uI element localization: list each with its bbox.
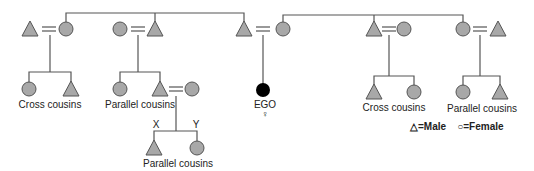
female-icon [113, 82, 127, 96]
female-icon [22, 82, 36, 96]
female-icon [59, 22, 73, 36]
label-parallel-cousins-bottom: Parallel cousins [143, 158, 213, 169]
female-symbol-icon: ♀ [262, 109, 269, 119]
legend: △=Male ○=Female [410, 121, 504, 132]
label-cross-cousins-right: Cross cousins [363, 102, 426, 113]
female-icon [397, 22, 411, 36]
female-icon [113, 22, 127, 36]
label-parallel-cousins-left: Parallel cousins [105, 99, 175, 110]
female-icon [456, 22, 470, 36]
male-icon [490, 21, 506, 36]
male-icon [152, 81, 168, 96]
label-cross-cousins-left: Cross cousins [19, 99, 82, 110]
male-icon [366, 84, 382, 99]
male-icon [146, 140, 162, 155]
marker-x: X [153, 119, 160, 130]
male-icon [236, 21, 252, 36]
marker-y: Y [193, 119, 200, 130]
male-icon [147, 21, 163, 36]
female-icon [407, 85, 421, 99]
female-icon [456, 85, 470, 99]
female-icon [190, 141, 204, 155]
male-icon [492, 84, 508, 99]
kinship-diagram [0, 0, 534, 171]
male-icon [366, 21, 382, 36]
legend-male-icon: △ [410, 121, 418, 132]
ego-icon [256, 83, 270, 97]
male-icon [63, 81, 79, 96]
male-icon [22, 21, 38, 36]
female-icon [185, 82, 199, 96]
female-icon [276, 22, 290, 36]
label-parallel-cousins-right: Parallel cousins [447, 103, 517, 114]
legend-male-label: =Male [418, 121, 446, 132]
legend-female-label: =Female [463, 121, 503, 132]
